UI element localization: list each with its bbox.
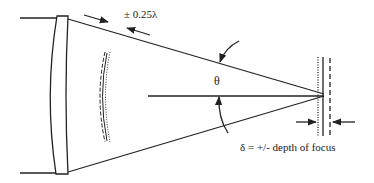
angle-label: θ <box>214 74 220 88</box>
wavefront-dotted <box>106 52 111 142</box>
angle-arrow-upper <box>220 41 239 62</box>
optics-diagram: ± 0.25λ θ δ = +/- depth of focus <box>0 0 374 183</box>
wavefront-solid <box>103 53 108 141</box>
wavefront-tolerance-label: ± 0.25λ <box>124 8 158 20</box>
tolerance-arrow-left <box>84 15 108 22</box>
tolerance-arrow-right <box>127 28 150 35</box>
angle-arrow-lower <box>219 97 228 133</box>
depth-of-focus-label: δ = +/- depth of focus <box>240 141 336 153</box>
lower-ray <box>68 96 324 172</box>
lens <box>50 16 68 174</box>
